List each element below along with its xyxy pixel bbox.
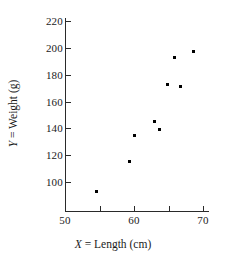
y-tick-mark (66, 21, 71, 22)
y-tick-label: 100 (46, 177, 63, 188)
y-axis-title-symbol: Y (7, 141, 19, 147)
x-tick-label: 60 (122, 215, 146, 226)
y-tick-mark (66, 155, 71, 156)
x-tick-label: 50 (53, 215, 77, 226)
y-tick-label: 180 (46, 70, 63, 81)
plot-area: 100120140160180200220 506070 (0, 0, 226, 262)
y-tick-mark (66, 128, 71, 129)
y-tick-mark (66, 182, 71, 183)
scatter-point (128, 160, 131, 163)
scatter-point (173, 56, 176, 59)
scatter-point (158, 128, 161, 131)
scatter-point (133, 134, 136, 137)
y-tick-mark (66, 48, 71, 49)
scatter-point (192, 50, 195, 53)
scatter-point (166, 83, 169, 86)
x-tick-label: 70 (191, 215, 215, 226)
x-tick-mark (169, 206, 170, 211)
x-axis-title: X = Length (cm) (0, 238, 226, 251)
x-tick-mark (203, 206, 204, 211)
y-axis-title-text: = Weight (g) (7, 80, 19, 141)
scatter-point (179, 85, 182, 88)
x-tick-mark (65, 206, 66, 211)
y-tick-label: 200 (46, 43, 63, 54)
y-tick-label: 220 (46, 16, 63, 27)
x-tick-mark (134, 206, 135, 211)
y-tick-label: 140 (46, 123, 63, 134)
y-tick-label: 120 (46, 150, 63, 161)
x-tick-mark (100, 206, 101, 211)
x-axis-title-text: = Length (cm) (82, 238, 151, 250)
x-axis-line (65, 211, 209, 212)
y-tick-mark (66, 75, 71, 76)
y-tick-label: 160 (46, 97, 63, 108)
y-axis-title: Y = Weight (g) (7, 54, 20, 174)
scatter-point (153, 120, 156, 123)
scatter-plot-figure: 100120140160180200220 506070 X = Length … (0, 0, 226, 262)
y-tick-mark (66, 102, 71, 103)
scatter-point (95, 190, 98, 193)
x-axis-title-symbol: X (75, 238, 82, 250)
